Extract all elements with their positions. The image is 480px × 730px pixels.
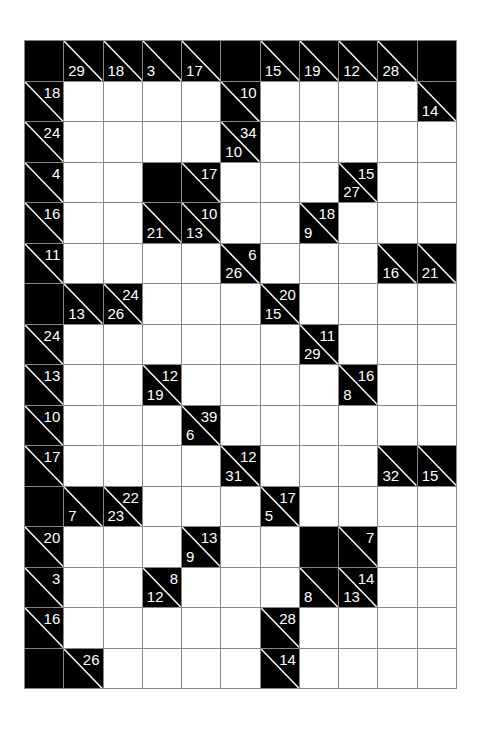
entry-cell[interactable] (143, 406, 181, 446)
entry-cell[interactable] (104, 365, 142, 405)
entry-cell[interactable] (300, 446, 338, 486)
entry-cell[interactable] (378, 608, 416, 648)
entry-cell[interactable] (261, 244, 299, 284)
entry-cell[interactable] (104, 446, 142, 486)
entry-cell[interactable] (378, 203, 416, 243)
entry-cell[interactable] (221, 325, 259, 365)
entry-cell[interactable] (64, 244, 102, 284)
entry-cell[interactable] (143, 122, 181, 162)
entry-cell[interactable] (221, 365, 259, 405)
entry-cell[interactable] (143, 82, 181, 122)
entry-cell[interactable] (261, 122, 299, 162)
entry-cell[interactable] (418, 365, 456, 405)
entry-cell[interactable] (104, 406, 142, 446)
entry-cell[interactable] (418, 203, 456, 243)
entry-cell[interactable] (143, 608, 181, 648)
entry-cell[interactable] (261, 82, 299, 122)
entry-cell[interactable] (221, 568, 259, 608)
entry-cell[interactable] (182, 365, 220, 405)
entry-cell[interactable] (64, 163, 102, 203)
entry-cell[interactable] (339, 244, 377, 284)
entry-cell[interactable] (143, 527, 181, 567)
entry-cell[interactable] (378, 284, 416, 324)
entry-cell[interactable] (378, 82, 416, 122)
entry-cell[interactable] (261, 365, 299, 405)
entry-cell[interactable] (64, 325, 102, 365)
entry-cell[interactable] (378, 122, 416, 162)
entry-cell[interactable] (104, 244, 142, 284)
entry-cell[interactable] (143, 649, 181, 689)
entry-cell[interactable] (143, 325, 181, 365)
entry-cell[interactable] (104, 163, 142, 203)
entry-cell[interactable] (182, 325, 220, 365)
entry-cell[interactable] (143, 244, 181, 284)
entry-cell[interactable] (378, 325, 416, 365)
entry-cell[interactable] (64, 122, 102, 162)
entry-cell[interactable] (104, 527, 142, 567)
entry-cell[interactable] (418, 527, 456, 567)
entry-cell[interactable] (418, 608, 456, 648)
entry-cell[interactable] (221, 284, 259, 324)
entry-cell[interactable] (418, 122, 456, 162)
entry-cell[interactable] (261, 406, 299, 446)
entry-cell[interactable] (418, 568, 456, 608)
entry-cell[interactable] (261, 446, 299, 486)
entry-cell[interactable] (182, 284, 220, 324)
entry-cell[interactable] (418, 284, 456, 324)
entry-cell[interactable] (104, 608, 142, 648)
entry-cell[interactable] (221, 163, 259, 203)
entry-cell[interactable] (339, 203, 377, 243)
entry-cell[interactable] (104, 203, 142, 243)
entry-cell[interactable] (300, 487, 338, 527)
entry-cell[interactable] (300, 406, 338, 446)
entry-cell[interactable] (378, 163, 416, 203)
entry-cell[interactable] (339, 284, 377, 324)
entry-cell[interactable] (261, 527, 299, 567)
entry-cell[interactable] (64, 446, 102, 486)
entry-cell[interactable] (182, 82, 220, 122)
entry-cell[interactable] (143, 487, 181, 527)
entry-cell[interactable] (221, 406, 259, 446)
entry-cell[interactable] (64, 527, 102, 567)
entry-cell[interactable] (339, 406, 377, 446)
entry-cell[interactable] (143, 446, 181, 486)
entry-cell[interactable] (221, 649, 259, 689)
entry-cell[interactable] (418, 487, 456, 527)
entry-cell[interactable] (300, 82, 338, 122)
entry-cell[interactable] (300, 163, 338, 203)
entry-cell[interactable] (378, 487, 416, 527)
entry-cell[interactable] (339, 82, 377, 122)
entry-cell[interactable] (300, 122, 338, 162)
entry-cell[interactable] (261, 203, 299, 243)
entry-cell[interactable] (378, 527, 416, 567)
entry-cell[interactable] (64, 406, 102, 446)
entry-cell[interactable] (104, 122, 142, 162)
entry-cell[interactable] (221, 527, 259, 567)
entry-cell[interactable] (339, 487, 377, 527)
entry-cell[interactable] (182, 446, 220, 486)
entry-cell[interactable] (378, 406, 416, 446)
entry-cell[interactable] (378, 649, 416, 689)
entry-cell[interactable] (104, 649, 142, 689)
entry-cell[interactable] (104, 568, 142, 608)
entry-cell[interactable] (418, 649, 456, 689)
entry-cell[interactable] (221, 203, 259, 243)
entry-cell[interactable] (339, 649, 377, 689)
entry-cell[interactable] (339, 446, 377, 486)
entry-cell[interactable] (182, 608, 220, 648)
entry-cell[interactable] (300, 284, 338, 324)
entry-cell[interactable] (182, 568, 220, 608)
entry-cell[interactable] (261, 163, 299, 203)
entry-cell[interactable] (418, 325, 456, 365)
entry-cell[interactable] (261, 325, 299, 365)
entry-cell[interactable] (104, 325, 142, 365)
entry-cell[interactable] (300, 608, 338, 648)
entry-cell[interactable] (64, 365, 102, 405)
entry-cell[interactable] (339, 608, 377, 648)
entry-cell[interactable] (182, 244, 220, 284)
entry-cell[interactable] (339, 325, 377, 365)
entry-cell[interactable] (300, 365, 338, 405)
entry-cell[interactable] (104, 82, 142, 122)
entry-cell[interactable] (221, 608, 259, 648)
entry-cell[interactable] (418, 406, 456, 446)
